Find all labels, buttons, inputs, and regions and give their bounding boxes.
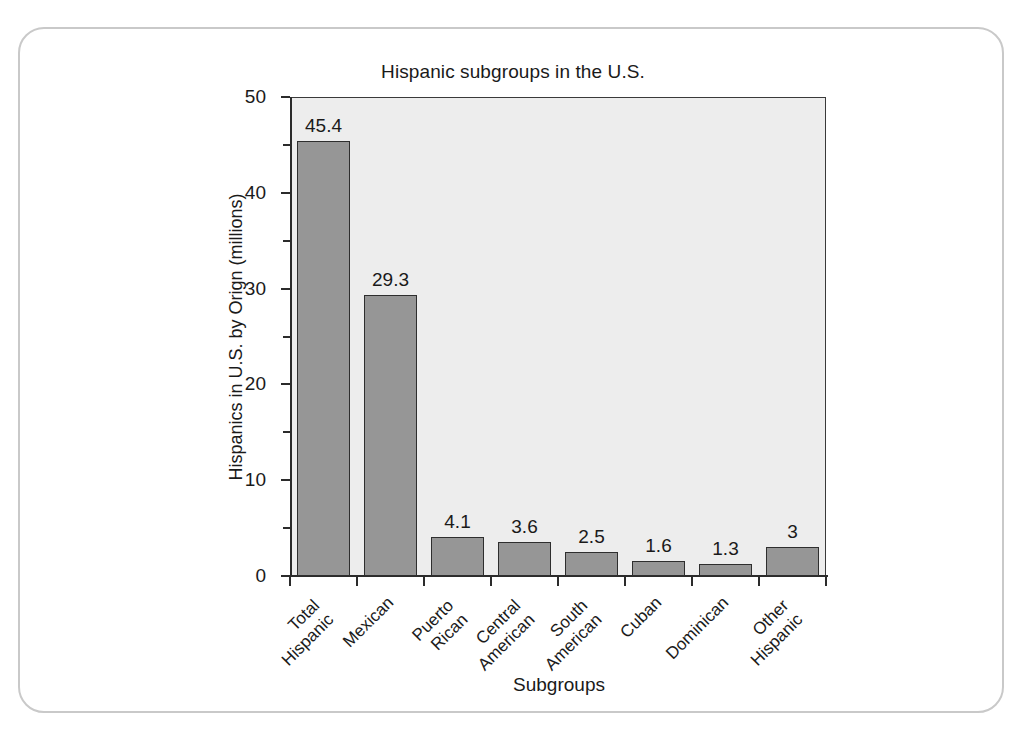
y-axis-title: Hispanics in U.S. by Orign (millions)	[226, 98, 250, 576]
bar	[498, 542, 552, 576]
bar	[632, 561, 686, 576]
y-tick-minor	[283, 527, 290, 529]
y-tick-minor	[283, 431, 290, 433]
x-tick	[825, 577, 827, 586]
bar-value-label: 1.6	[625, 535, 692, 557]
y-tick-major	[281, 192, 290, 194]
figure-card: Hispanic subgroups in the U.S. 504030201…	[18, 27, 1004, 713]
bar-value-label: 1.3	[692, 538, 759, 560]
x-tick	[490, 577, 492, 586]
y-tick-major	[281, 96, 290, 98]
x-axis-title: Subgroups	[290, 674, 828, 696]
x-tick	[289, 577, 291, 586]
x-category-label-line: Total	[196, 596, 323, 723]
bar-value-label: 3	[759, 521, 826, 543]
bar	[431, 537, 485, 576]
x-tick	[691, 577, 693, 586]
bar-value-label: 3.6	[491, 516, 558, 538]
x-tick	[557, 577, 559, 586]
y-tick-minor	[283, 240, 290, 242]
bar	[699, 564, 753, 576]
bar	[364, 295, 418, 576]
bar	[766, 547, 820, 576]
bar-chart: Hispanic subgroups in the U.S. 504030201…	[20, 29, 1006, 715]
x-tick	[758, 577, 760, 586]
x-tick	[624, 577, 626, 586]
y-tick-major	[281, 288, 290, 290]
bar	[297, 141, 351, 576]
chart-title: Hispanic subgroups in the U.S.	[20, 61, 1006, 83]
y-tick-minor	[283, 144, 290, 146]
y-tick-major	[281, 383, 290, 385]
x-category-label: OtherHispanic	[665, 596, 806, 737]
x-tick	[356, 577, 358, 586]
bar-value-label: 4.1	[424, 511, 491, 533]
bar-value-label: 29.3	[357, 269, 424, 291]
y-tick-minor	[283, 336, 290, 338]
bar-value-label: 45.4	[290, 115, 357, 137]
y-axis-line	[290, 97, 292, 576]
x-category-label-line: Other	[665, 596, 792, 723]
bar-value-label: 2.5	[558, 526, 625, 548]
bar	[565, 552, 619, 576]
y-tick-major	[281, 479, 290, 481]
x-tick	[423, 577, 425, 586]
